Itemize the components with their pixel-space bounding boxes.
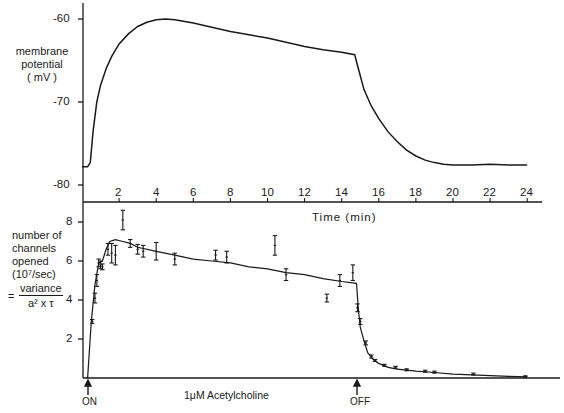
x-tick-label: 24: [520, 186, 533, 198]
bottom-ylabel-line1: number of: [12, 229, 62, 242]
figure-canvas: [0, 0, 564, 413]
data-point-error-bar: [393, 366, 397, 368]
equation-denominator: a² x τ: [19, 296, 63, 309]
data-point-error-bar: [273, 236, 277, 256]
top-ylabel-line1: membrane: [4, 45, 80, 58]
bottom-ytick-label: 8: [66, 215, 72, 227]
data-point-error-bar: [284, 269, 288, 281]
equation-prefix: =: [8, 290, 14, 303]
data-point-error-bar: [141, 245, 145, 257]
top-ytick-label: -80: [53, 178, 70, 190]
off-label: OFF: [350, 396, 370, 407]
channels-fit-curve: [88, 240, 528, 378]
top-ylabel-line3: ( mV ): [4, 71, 80, 84]
channels-data-points: [90, 210, 528, 377]
bottom-ytick-label: 4: [66, 293, 72, 305]
data-point-error-bar: [351, 265, 355, 281]
off-arrow-icon: [354, 380, 360, 395]
data-point-error-bar: [121, 210, 125, 230]
top-ytick-label: -70: [53, 95, 70, 107]
x-tick-label: 18: [409, 186, 422, 198]
x-tick-label: 20: [446, 186, 459, 198]
x-tick-label: 8: [227, 186, 233, 198]
on-label: ON: [82, 396, 97, 407]
bottom-ylabel-line3: opened: [12, 255, 62, 268]
top-ylabel: membrane potential ( mV ): [4, 45, 80, 84]
data-point-error-bar: [471, 373, 475, 375]
data-point-error-bar: [369, 355, 373, 358]
equation-fraction: variance a² x τ: [19, 282, 63, 309]
bottom-ylabel-line2: channels: [12, 242, 62, 255]
top-ylabel-line2: potential: [4, 58, 80, 71]
x-axis-label: Time (min): [312, 211, 377, 223]
on-arrow-icon: [85, 380, 91, 395]
data-point-error-bar: [109, 243, 113, 263]
x-tick-label: 6: [190, 186, 196, 198]
bottom-ylabel: number of channels opened (10⁷/sec): [12, 229, 62, 281]
bottom-ytick-label: 2: [66, 332, 72, 344]
equation-numerator: variance: [19, 282, 63, 296]
x-tick-label: 14: [335, 186, 348, 198]
data-point-error-bar: [325, 294, 329, 302]
x-tick-label: 12: [298, 186, 311, 198]
x-tick-label: 16: [372, 186, 385, 198]
data-point-error-bar: [213, 250, 217, 260]
data-point-error-bar: [113, 245, 117, 265]
x-tick-label: 22: [483, 186, 496, 198]
x-tick-label: 10: [261, 186, 274, 198]
data-point-error-bar: [224, 251, 228, 263]
top-ytick-label: -60: [53, 12, 70, 24]
bottom-ytick-label: 6: [66, 254, 72, 266]
data-point-error-bar: [358, 319, 362, 325]
membrane-potential-curve: [82, 19, 527, 167]
drug-label: 1μM Acetylcholine: [184, 389, 269, 401]
x-tick-label: 2: [115, 186, 121, 198]
bottom-ylabel-line4: (10⁷/sec): [12, 268, 62, 281]
x-tick-label: 4: [153, 186, 159, 198]
